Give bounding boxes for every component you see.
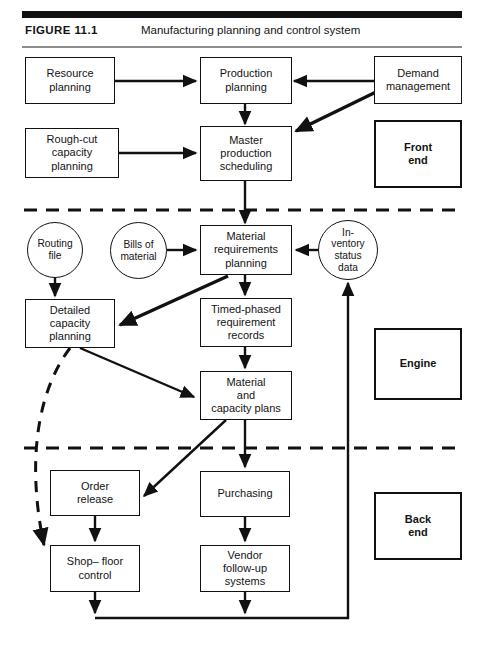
node-label-line1: In- bbox=[342, 227, 354, 238]
node-label-line2: ventory bbox=[331, 238, 364, 249]
legend-line1: Back bbox=[405, 513, 431, 525]
node-label-line1: Master bbox=[229, 134, 263, 146]
node-inventory-status-data[interactable]: In- ventory status data bbox=[318, 220, 378, 280]
legend-line2: end bbox=[408, 526, 428, 538]
node-label-line3: planning bbox=[49, 330, 91, 342]
node-label-line1: Routing bbox=[37, 238, 72, 249]
node-label-line1: Timed-phased bbox=[211, 303, 281, 315]
node-label-line2: file bbox=[48, 250, 61, 261]
node-detailed-capacity-planning[interactable]: Detailed capacity planning bbox=[25, 299, 115, 348]
node-label-line2: requirements bbox=[214, 243, 278, 255]
node-order-release[interactable]: Order release bbox=[50, 470, 140, 516]
node-vendor-follow-up-systems[interactable]: Vendor follow-up systems bbox=[200, 545, 290, 592]
node-label-line1: Detailed bbox=[50, 304, 90, 316]
node-material-and-capacity-plans[interactable]: Material and capacity plans bbox=[200, 371, 292, 420]
node-label-line1: Resource bbox=[46, 67, 93, 79]
node-master-production-scheduling[interactable]: Master production scheduling bbox=[200, 126, 292, 181]
node-label-line3: systems bbox=[225, 575, 265, 587]
node-bills-of-material[interactable]: Bills of material bbox=[110, 222, 167, 279]
node-timed-phased-requirement-records[interactable]: Timed-phased requirement records bbox=[200, 298, 292, 347]
node-label-line2: management bbox=[386, 80, 450, 92]
node-label-line4: data bbox=[338, 262, 358, 273]
node-label-line3: status bbox=[334, 250, 361, 261]
node-label-line2: requirement bbox=[217, 316, 276, 328]
node-label-line2: material bbox=[120, 251, 156, 262]
node-label-line1: Material bbox=[226, 230, 265, 242]
node-label-line1: Shop– floor bbox=[67, 555, 123, 567]
node-resource-planning[interactable]: Resource planning bbox=[25, 57, 115, 104]
node-label-line1: Order bbox=[81, 480, 109, 492]
legend-front-end: Front end bbox=[374, 120, 462, 188]
node-rough-cut-capacity-planning[interactable]: Rough-cut capacity planning bbox=[25, 128, 119, 178]
node-label-line1: Bills of bbox=[123, 239, 153, 250]
legend-line2: end bbox=[408, 154, 428, 166]
legend-back-end: Back end bbox=[374, 492, 462, 560]
node-label-line2: release bbox=[77, 493, 113, 505]
legend-engine: Engine bbox=[374, 328, 462, 400]
node-label-line1: Material bbox=[226, 376, 265, 388]
node-label-line1: Demand bbox=[397, 67, 439, 79]
node-production-planning[interactable]: Production planning bbox=[200, 57, 292, 104]
node-label-line2: planning bbox=[225, 81, 267, 93]
node-label-line1: Purchasing bbox=[217, 487, 272, 499]
edge-demand-to-mps bbox=[296, 92, 376, 131]
node-label-line2: production bbox=[220, 147, 271, 159]
node-label-line1: Rough-cut bbox=[47, 133, 98, 145]
node-purchasing[interactable]: Purchasing bbox=[200, 471, 290, 517]
node-label-line2: planning bbox=[49, 81, 91, 93]
node-demand-management[interactable]: Demand management bbox=[374, 56, 462, 104]
node-label-line3: scheduling bbox=[220, 160, 273, 172]
edge-detailed-to-plans bbox=[80, 348, 194, 397]
figure-page: FIGURE 11.1 Manufacturing planning and c… bbox=[0, 0, 486, 650]
node-label-line3: planning bbox=[51, 160, 93, 172]
node-label-line1: Production bbox=[220, 67, 273, 79]
node-label-line2: control bbox=[78, 569, 111, 581]
node-label-line3: records bbox=[228, 329, 265, 341]
node-label-line2: capacity bbox=[50, 317, 90, 329]
node-material-requirements-planning[interactable]: Material requirements planning bbox=[200, 225, 292, 275]
legend-line1: Engine bbox=[400, 357, 437, 369]
node-label-line2: and bbox=[237, 389, 255, 401]
node-label-line3: capacity plans bbox=[211, 402, 281, 414]
node-shop-floor-control[interactable]: Shop– floor control bbox=[50, 545, 140, 592]
legend-line1: Front bbox=[404, 141, 432, 153]
node-routing-file[interactable]: Routing file bbox=[27, 222, 83, 278]
node-label-line2: follow-up bbox=[223, 562, 267, 574]
node-label-line3: planning bbox=[225, 257, 267, 269]
node-label-line2: capacity bbox=[52, 146, 92, 158]
node-label-line1: Vendor bbox=[228, 549, 263, 561]
